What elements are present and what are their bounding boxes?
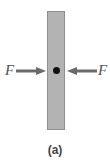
force-label-right: F	[98, 62, 107, 78]
force-arrow-left-icon	[67, 67, 97, 75]
figure-caption: (a)	[0, 143, 110, 157]
force-label-left: F	[5, 62, 14, 78]
center-point	[53, 67, 60, 74]
force-arrow-right-icon	[16, 67, 46, 75]
